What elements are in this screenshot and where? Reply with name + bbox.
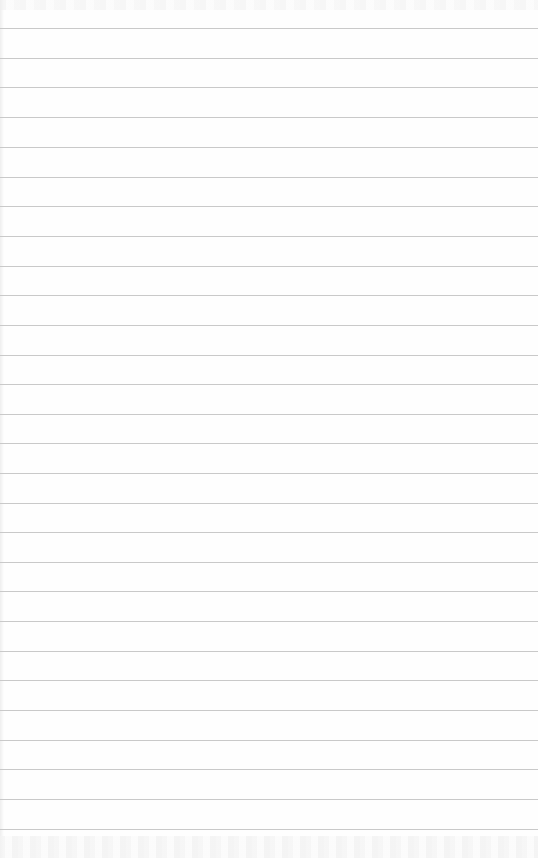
torn-bottom-edge xyxy=(0,836,538,858)
ruled-line xyxy=(0,295,538,296)
ruled-line xyxy=(0,621,538,622)
ruled-line xyxy=(0,266,538,267)
ruled-line xyxy=(0,591,538,592)
lined-paper xyxy=(0,0,538,858)
ruled-line xyxy=(0,443,538,444)
ruled-line xyxy=(0,117,538,118)
ruled-line xyxy=(0,147,538,148)
ruled-line xyxy=(0,769,538,770)
ruled-line xyxy=(0,325,538,326)
ruled-line xyxy=(0,740,538,741)
ruled-line xyxy=(0,710,538,711)
ruled-line xyxy=(0,28,538,29)
torn-top-edge xyxy=(0,0,538,10)
ruled-line xyxy=(0,355,538,356)
ruled-line xyxy=(0,87,538,88)
ruled-line xyxy=(0,651,538,652)
left-edge-shadow xyxy=(0,0,4,858)
ruled-line xyxy=(0,177,538,178)
ruled-line xyxy=(0,799,538,800)
ruled-line xyxy=(0,414,538,415)
ruled-line xyxy=(0,58,538,59)
ruled-line xyxy=(0,829,538,830)
ruled-line xyxy=(0,473,538,474)
ruled-line xyxy=(0,503,538,504)
ruled-line xyxy=(0,236,538,237)
ruled-line xyxy=(0,680,538,681)
ruled-line xyxy=(0,384,538,385)
ruled-line xyxy=(0,532,538,533)
ruled-line xyxy=(0,562,538,563)
ruled-line xyxy=(0,206,538,207)
